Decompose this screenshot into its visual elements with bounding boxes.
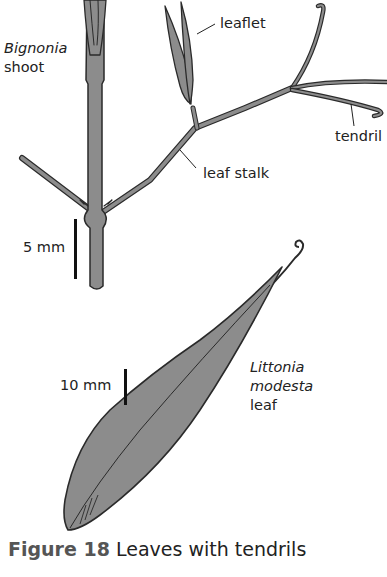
tendril-leader [351, 104, 354, 126]
littonia-name-1: Littonia [250, 359, 304, 376]
scale-5mm-label: 5 mm [23, 239, 65, 256]
scale-10mm-label: 10 mm [60, 377, 111, 394]
leaflet-leader [197, 24, 215, 34]
figure-number: Figure 18 [8, 538, 110, 560]
littonia-name-2: modesta [250, 378, 313, 395]
tendril-upper [292, 5, 323, 88]
scale-bar-10mm [124, 369, 127, 405]
tendril-lower [292, 90, 381, 116]
scale-bar-5mm [74, 219, 77, 279]
littonia-name-3: leaf [250, 397, 277, 414]
bignonia-name: Bignonia [4, 40, 67, 57]
leaf-stalk-leader [180, 150, 196, 168]
illustration [0, 0, 387, 577]
leaflet-label: leaflet [220, 15, 266, 32]
figure-title: Leaves with tendrils [116, 538, 306, 560]
leaf-stalk-label: leaf stalk [203, 165, 269, 182]
bignonia-shoot-label: shoot [4, 59, 44, 76]
tendril-label: tendril [335, 128, 382, 145]
figure-caption: Figure 18 Leaves with tendrils [8, 538, 306, 560]
